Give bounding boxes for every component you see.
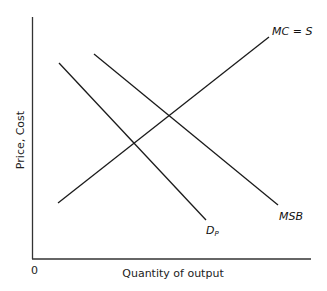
- mc-supply-curve: [58, 37, 269, 203]
- diagram-canvas: MC = S MSB DP 0 Quantity of output Price…: [0, 0, 327, 291]
- dp-label-main: D: [206, 224, 214, 237]
- origin-label: 0: [31, 264, 38, 277]
- x-axis-label: Quantity of output: [122, 267, 224, 280]
- msb-label: MSB: [279, 210, 303, 223]
- y-axis-label: Price, Cost: [14, 110, 27, 169]
- dp-label-sub: P: [214, 230, 219, 238]
- mc-s-label: MC = S: [272, 25, 312, 38]
- private-demand-curve: [59, 63, 206, 220]
- dp-label: DP: [206, 224, 219, 238]
